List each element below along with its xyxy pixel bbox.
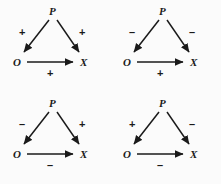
sign-o-to-x: + <box>47 68 53 79</box>
edge-p-to-x <box>167 112 189 144</box>
diagram-panel-top-right: P O X – – + <box>110 0 220 92</box>
sign-p-to-x: + <box>79 119 85 130</box>
node-label-p: P <box>159 6 166 17</box>
sign-p-to-o: – <box>129 27 135 38</box>
node-label-x: X <box>80 149 87 160</box>
node-label-p: P <box>49 98 56 109</box>
signed-triangle-figure: P O X + + + P O X – – + P O X – + – <box>0 0 221 184</box>
node-label-x: X <box>190 57 197 68</box>
edge-p-to-o <box>134 112 159 144</box>
sign-p-to-x: – <box>189 27 195 38</box>
node-label-x: X <box>190 149 197 160</box>
edge-p-to-o <box>24 112 49 144</box>
sign-o-to-x: – <box>157 160 163 171</box>
node-label-o: O <box>13 57 21 68</box>
sign-o-to-x: + <box>157 68 163 79</box>
sign-o-to-x: – <box>47 160 53 171</box>
edge-p-to-x <box>57 20 79 52</box>
node-label-o: O <box>123 57 131 68</box>
edge-p-to-o <box>134 20 159 52</box>
diagram-panel-bottom-right: P O X + – – <box>110 92 220 184</box>
sign-p-to-o: – <box>19 119 25 130</box>
diagram-panel-bottom-left: P O X – + – <box>0 92 110 184</box>
node-label-x: X <box>80 57 87 68</box>
sign-p-to-o: + <box>129 119 135 130</box>
diagram-panel-top-left: P O X + + + <box>0 0 110 92</box>
node-label-o: O <box>123 149 131 160</box>
node-label-o: O <box>13 149 21 160</box>
sign-p-to-x: – <box>189 119 195 130</box>
sign-p-to-o: + <box>19 27 25 38</box>
sign-p-to-x: + <box>79 27 85 38</box>
edge-p-to-o <box>24 20 49 52</box>
edge-p-to-x <box>57 112 79 144</box>
edge-p-to-x <box>167 20 189 52</box>
node-label-p: P <box>49 6 56 17</box>
node-label-p: P <box>159 98 166 109</box>
